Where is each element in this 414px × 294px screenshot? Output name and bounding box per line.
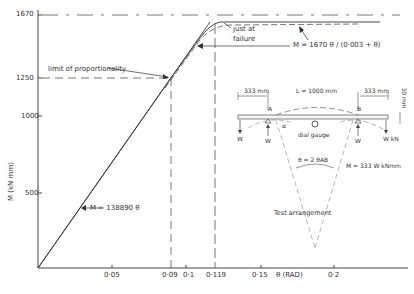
x-axis-label: θ (RAD): [276, 272, 303, 279]
test-arrangement-inset: [238, 92, 400, 248]
inset-support-b: B: [357, 106, 361, 112]
inset-moment: M = 333 W kNmm: [346, 163, 401, 169]
beam: [238, 115, 388, 119]
dial-gauge-icon: [312, 121, 318, 127]
y-tick-1000: 1000: [21, 113, 39, 120]
inset-span-label: L = 1000 mm: [296, 88, 337, 94]
y-tick-1250: 1250: [16, 75, 34, 82]
inset-load-b: W: [355, 138, 361, 144]
annotation-hyperbolic-eq: M = 1670 θ / (0·003 + θ): [293, 42, 381, 49]
inset-load-left: W: [237, 136, 243, 142]
inset-overhang-right: 333 mm: [364, 88, 389, 94]
x-tick-0119: 0·119: [206, 272, 226, 279]
x-tick-009: 0·09: [162, 272, 178, 279]
inset-rotation: θ = 2 θAB: [298, 157, 328, 163]
x-tick-02: 0·2: [328, 272, 339, 279]
inset-title: Test arrangement: [274, 210, 331, 217]
x-tick-015: 0·15: [252, 272, 268, 279]
inset-dial-gauge: dial gauge: [298, 132, 330, 138]
inset-load-unit: W kN: [383, 136, 399, 142]
y-axis-label: M (kN mm): [8, 162, 15, 201]
annotation-linear-eq: M = 138890 θ: [90, 205, 140, 212]
inset-depth: 30 mm: [401, 87, 407, 108]
inset-support-a: A: [268, 106, 272, 112]
y-tick-1670: 1670: [16, 11, 34, 18]
experimental-curve: [38, 22, 380, 268]
x-tick-01: 0·1: [183, 272, 194, 279]
annotation-just-at-failure: just at failure: [233, 24, 263, 44]
inset-alpha: α: [282, 123, 286, 129]
y-tick-500: 500: [25, 190, 38, 197]
inset-load-a: W: [265, 138, 271, 144]
x-tick-005: 0·05: [104, 272, 120, 279]
annotation-limit-of-proportionality: limit of proportionality: [48, 66, 126, 73]
inset-overhang-left: 333 mm: [244, 88, 269, 94]
